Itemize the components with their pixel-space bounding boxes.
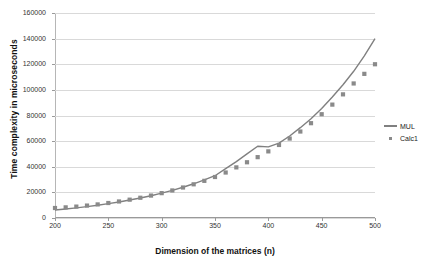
data-point [53,206,57,210]
data-point [128,198,132,202]
data-point [138,196,142,200]
x-axis-title: Dimension of the matrices (n) [55,246,375,256]
data-point [106,201,110,205]
data-series-layer [55,13,375,218]
data-point [64,205,68,209]
data-point [160,191,164,195]
legend-label-mul: MUL [400,123,415,130]
data-point [213,175,217,179]
y-tick-label: 60000 [27,137,46,145]
legend-label-calc1: Calc1 [400,135,418,142]
data-point [96,202,100,206]
y-tick-label: 100000 [23,86,46,94]
x-tick-label: 200 [40,222,70,229]
data-point [234,165,238,169]
x-tick-label: 300 [147,222,177,229]
x-tick-mark [108,218,109,221]
data-point [224,170,228,174]
y-tick-label: 20000 [27,188,46,196]
y-tick-label: 80000 [27,112,46,120]
data-point [202,179,206,183]
y-tick-label: 140000 [23,35,46,43]
data-point [74,204,78,208]
data-point [170,188,174,192]
data-point [352,81,356,85]
data-point [309,121,313,125]
legend-item-calc1: Calc1 [383,132,418,144]
line-swatch-icon [383,125,397,127]
x-tick-mark [322,218,323,221]
data-point [362,72,366,76]
data-point [373,62,377,66]
y-tick-label: 120000 [23,60,46,68]
data-point [245,160,249,164]
x-tick-mark [162,218,163,221]
data-point [298,129,302,133]
data-point [266,149,270,153]
y-tick-label: 160000 [23,9,46,17]
series-markers-calc1 [53,62,377,210]
data-point [85,203,89,207]
data-point [192,182,196,186]
y-tick-label: 0 [42,214,46,222]
x-tick-label: 450 [307,222,337,229]
x-tick-label: 350 [200,222,230,229]
y-axis-title: Time complexity in microseconds [9,19,19,199]
data-point [277,143,281,147]
x-tick-mark [375,218,376,221]
x-tick-label: 500 [360,222,390,229]
data-point [330,103,334,107]
x-tick-mark [215,218,216,221]
data-point [149,193,153,197]
x-tick-mark [268,218,269,221]
data-point [181,185,185,189]
data-point [341,92,345,96]
chart-container: Time complexity in microseconds 02000040… [0,0,425,263]
data-point [117,199,121,203]
data-point [256,155,260,159]
square-swatch-icon [383,137,397,140]
y-tick-label: 40000 [27,163,46,171]
x-tick-label: 250 [93,222,123,229]
data-point [288,136,292,140]
data-point [320,112,324,116]
series-line-mul [55,39,375,210]
x-tick-label: 400 [253,222,283,229]
chart-legend: MUL Calc1 [383,120,418,144]
legend-item-mul: MUL [383,120,418,132]
x-tick-mark [55,218,56,221]
